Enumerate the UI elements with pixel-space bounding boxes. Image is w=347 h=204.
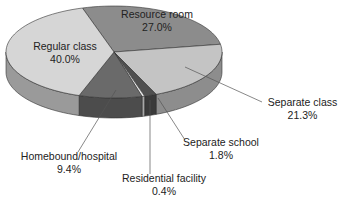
label-name: Residential facility [112, 172, 216, 185]
label-regular-class: Regular class 40.0% [20, 40, 110, 66]
label-name: Separate school [178, 136, 264, 149]
label-value: 0.4% [112, 185, 216, 198]
label-name: Separate class [260, 96, 345, 109]
label-value: 27.0% [112, 21, 202, 34]
label-separate-school: Separate school 1.8% [178, 136, 264, 162]
label-resource-room: Resource room 27.0% [112, 8, 202, 34]
label-name: Homebound/hospital [14, 150, 124, 163]
label-separate-class: Separate class 21.3% [260, 96, 345, 122]
label-value: 9.4% [14, 163, 124, 176]
pie-side-residential-facility [142, 96, 145, 116]
label-name: Resource room [112, 8, 202, 21]
label-name: Regular class [20, 40, 110, 53]
pie-side-separate-school [145, 94, 157, 116]
label-value: 40.0% [20, 53, 110, 66]
label-homebound-hospital: Homebound/hospital 9.4% [14, 150, 124, 176]
label-residential-facility: Residential facility 0.4% [112, 172, 216, 198]
label-value: 1.8% [178, 149, 264, 162]
label-value: 21.3% [260, 109, 345, 122]
